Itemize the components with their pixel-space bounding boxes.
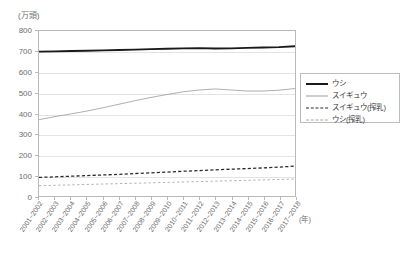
x-axis-tick-mark — [296, 197, 297, 200]
y-axis-tick-label: 400 — [2, 109, 32, 118]
data-series-layer — [39, 31, 295, 196]
x-axis-tick-mark — [199, 197, 200, 200]
x-axis-tick-mark — [86, 197, 87, 200]
legend-label: スイギュウ — [332, 92, 367, 100]
legend-item-ushi: ウシ — [306, 78, 395, 89]
x-axis-tick-mark — [135, 197, 136, 200]
x-axis-tick-mark — [232, 197, 233, 200]
legend-item-suigyu: スイギュウ — [306, 90, 395, 101]
y-axis-tick-label: 500 — [2, 88, 32, 97]
legend-label: スイギュウ(搾乳) — [332, 104, 386, 112]
legend-label: ウシ — [332, 80, 346, 88]
y-axis-tick-label: 700 — [2, 46, 32, 55]
x-axis-tick-mark — [54, 197, 55, 200]
series-line — [39, 46, 295, 51]
y-axis-tick-label: 600 — [2, 67, 32, 76]
y-axis-tick-label: 300 — [2, 130, 32, 139]
y-axis-tick-label: 100 — [2, 172, 32, 181]
y-axis-unit-label: (万頭) — [18, 9, 39, 20]
legend-item-ushi-sakunyu: ウシ(搾乳) — [306, 114, 395, 125]
y-axis-tick-label: 800 — [2, 26, 32, 35]
x-axis-tick-mark — [248, 197, 249, 200]
x-axis-tick-mark — [38, 197, 39, 200]
x-axis-tick-mark — [119, 197, 120, 200]
y-axis-tick-label: 0 — [2, 193, 32, 202]
y-axis-tick-label: 200 — [2, 151, 32, 160]
x-axis-tick-mark — [183, 197, 184, 200]
x-axis-tick-mark — [103, 197, 104, 200]
plot-area — [38, 30, 296, 197]
x-axis-unit-label: (年) — [299, 213, 311, 224]
x-axis-tick-mark — [167, 197, 168, 200]
x-axis-tick-mark — [280, 197, 281, 200]
legend-line-solid-thin-icon — [306, 92, 328, 100]
x-axis-tick-mark — [215, 197, 216, 200]
x-axis-tick-mark — [264, 197, 265, 200]
chart-legend: ウシ スイギュウ スイギュウ(搾乳) ウシ(搾乳) — [300, 73, 400, 123]
series-line — [39, 179, 295, 186]
legend-item-suigyu-sakunyu: スイギュウ(搾乳) — [306, 102, 395, 113]
x-axis-tick-mark — [70, 197, 71, 200]
legend-line-dashed-icon — [306, 104, 328, 112]
x-axis-tick-mark — [151, 197, 152, 200]
legend-label: ウシ(搾乳) — [332, 116, 365, 124]
series-line — [39, 89, 295, 120]
legend-line-solid-thick-icon — [306, 80, 328, 88]
legend-line-dotted-icon — [306, 116, 328, 124]
chart-container: (万頭) 0100200300400500600700800 2001~2002… — [0, 0, 416, 256]
series-line — [39, 166, 295, 177]
